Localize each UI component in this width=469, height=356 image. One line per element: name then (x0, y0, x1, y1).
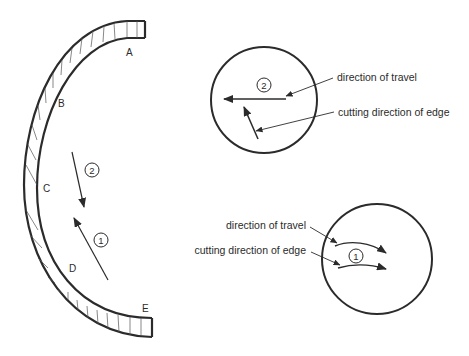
detail-bottom-circle (322, 204, 432, 314)
motion-2-label: 2 (89, 165, 94, 176)
detail-top: 2 direction of travel cutting direction … (211, 47, 450, 153)
detail-top-badge-label: 2 (261, 80, 266, 91)
cutting-direction-diagram: A B C D E 2 1 2 direction of travel cutt… (0, 0, 469, 356)
motion-1-label: 1 (98, 235, 103, 246)
point-label-e: E (142, 303, 149, 314)
detail-bottom: 1 direction of travel cutting direction … (195, 204, 433, 314)
cutting-arrow-bottom (338, 265, 386, 269)
point-label-c: C (43, 183, 50, 194)
point-label-a: A (126, 47, 133, 58)
leader-cutting-bottom (311, 252, 340, 265)
callout-cutting-bottom: cutting direction of edge (195, 244, 307, 256)
callout-cutting-top: cutting direction of edge (338, 106, 450, 118)
leader-travel-bottom (310, 227, 337, 243)
blade-inner-edge (37, 38, 152, 318)
detail-top-circle (211, 47, 317, 153)
blade-outer-edge (24, 21, 152, 337)
point-label-d: D (69, 263, 76, 274)
blade-section: A B C D E 2 1 (24, 21, 152, 337)
callout-travel-top: direction of travel (337, 71, 417, 83)
leader-travel-top (286, 78, 333, 96)
detail-bottom-badge-label: 1 (353, 251, 358, 262)
cutting-arrow-top (244, 107, 258, 139)
motion-1-arrow (74, 218, 108, 280)
leader-cutting-top (256, 112, 334, 131)
point-label-b: B (58, 98, 65, 109)
blade-hatching (26, 21, 141, 336)
callout-travel-bottom: direction of travel (226, 219, 306, 231)
motion-2-arrow (72, 152, 84, 207)
